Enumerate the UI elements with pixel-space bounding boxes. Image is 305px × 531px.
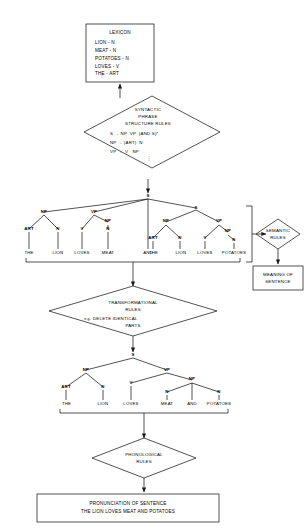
deep-terminal-lion-1: LION [47,250,69,255]
phonological-line1: PHONOLOGICAL [104,452,184,457]
deep-node-s-root: S [143,193,153,198]
surface-node-v1: V [126,380,136,385]
deep-terminal-loves-2: LOVES [193,250,217,255]
surface-node-np2: NP [186,376,198,381]
deep-node-np4: NP [222,228,234,233]
deep-node-np1: NP [38,209,50,214]
edge2-s-np1 [86,358,133,370]
deep-node-s-right: S [191,205,201,210]
deep-node-np3: NP [160,218,172,223]
semantic-line1: SEMANTIC [253,228,303,233]
surface-node-vp1: VP [161,367,173,372]
lexicon-entry-lion: LION - N [95,40,155,46]
deep-terminal-potatoes: POTATOES [218,250,250,255]
transformational-title-line1: TRANSFORMATIONAL [83,300,183,305]
deep-node-n3: N [175,235,185,240]
semantic-line2: RULES [253,235,303,240]
phonological-diamond-outline [92,438,196,478]
surface-terminal-lion: LION [92,401,114,406]
rule-s: S → NP VP (AND S)* [110,131,200,136]
surface-node-np1: NP [80,367,92,372]
transformational-example: DELETE IDENTICAL [93,316,173,321]
deep-terminal-meat: MEAT [97,250,119,255]
deep-node-n2: N [103,226,113,231]
deep-node-n4: N [229,237,239,242]
phonological-line2: RULES [104,459,184,464]
pronunciation-box-outline [37,494,219,522]
pronunciation-line1: PRONUNCIATION OF SENTENCE [37,501,219,507]
deep-terminal-the-1: THE [18,250,40,255]
lexicon-title: LEXICON [86,30,154,36]
edge-s-vp1 [94,199,148,212]
surface-terminal-the: THE [56,401,77,406]
surface-node-n2: N [162,389,172,394]
transformational-example-prefix: e.g. [77,317,91,321]
lexicon-continuation-dots: ⋮ [95,74,109,78]
deep-node-v2: V [200,235,210,240]
rule-np: NP → (ART) N [110,140,200,145]
deep-terminal-lion-2: LION [170,250,192,255]
rule-vp: VP → V NP [110,149,200,154]
deep-node-vp2: VP [213,218,225,223]
surface-node-n3: N [214,389,224,394]
syntactic-title-line2: PHRASE [98,114,198,119]
meaning-line2: SENTENCE [253,279,303,284]
pronunciation-line2: THE LION LOVES MEAT AND POTATOES [37,509,219,515]
surface-tree-terminal-brace [60,409,228,413]
surface-terminal-loves: LOVES [119,401,143,406]
deep-terminal-loves-1: LOVES [70,250,94,255]
syntactic-title-line1: SYNTACTIC [98,107,198,112]
syntactic-title-line3: STRUCTURE RULES [98,121,198,126]
lexicon-entry-potatoes: POTATOES - N [95,56,155,62]
deep-node-vp1: VP [88,209,100,214]
deep-tree-terminal-brace [26,258,240,262]
surface-terminal-meat: MEAT [156,401,178,406]
meaning-box-outline [253,266,303,290]
deep-node-v1: V [77,226,87,231]
surface-terminal-and: AND [182,401,202,406]
deep-node-np2: NP [102,218,114,223]
transformational-title-line2: RULES [83,307,183,312]
surface-node-art1: ART [59,384,73,389]
meaning-line1: MEANING OF [253,272,303,277]
surface-node-n1: N [98,384,108,389]
edge2-vp1-v1 [131,373,167,383]
transformational-example-line2: PARTS [83,323,183,328]
deep-node-n1: N [53,226,63,231]
edge-s-sright [148,199,196,208]
lexicon-entry-meat: MEAT - N [95,48,155,54]
surface-terminal-potatoes: POTATOES [203,401,235,406]
lexicon-entry-loves: LOVES - V [95,64,155,70]
surface-node-s-root: S [128,352,138,357]
diagram-canvas: LEXICON LION - N MEAT - N POTATOES - N L… [0,0,305,531]
syntactic-continuation-dots: ⋮ [142,157,156,161]
deep-terminal-the-2: THE [144,250,163,255]
deep-node-art1: ART [22,226,36,231]
deep-node-art2: ART [146,235,160,240]
